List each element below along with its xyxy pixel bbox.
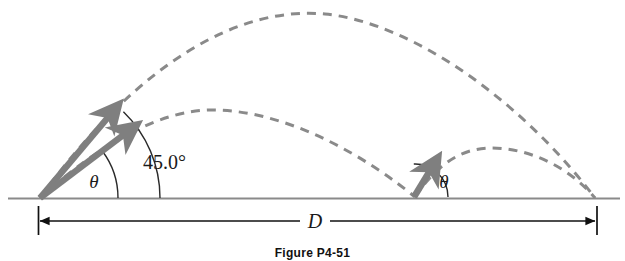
projectile-figure: θ 45.0° θ D Figure P4-51 bbox=[0, 0, 625, 261]
theta-label-left: θ bbox=[89, 171, 98, 192]
figure-caption: Figure P4-51 bbox=[0, 246, 625, 261]
arc-theta-left bbox=[102, 151, 118, 198]
projectile-diagram-canvas: θ 45.0° θ D bbox=[0, 0, 625, 261]
velocity-vector-theta-right bbox=[414, 169, 431, 197]
trajectory-group bbox=[40, 13, 595, 198]
theta-label-right: θ bbox=[439, 171, 448, 192]
angle-45-label: 45.0° bbox=[143, 151, 186, 173]
distance-label-D: D bbox=[307, 210, 323, 232]
trajectory-tall-45 bbox=[40, 13, 595, 198]
